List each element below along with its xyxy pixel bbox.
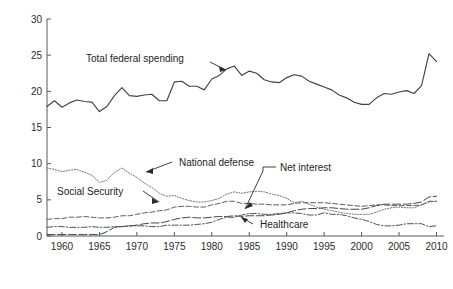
x-tick-label: 1960	[51, 241, 74, 252]
x-tick-label: 2005	[388, 241, 411, 252]
x-tick-label: 2000	[350, 241, 373, 252]
annotation-total-federal-spending: Total federal spending	[86, 53, 184, 64]
arrowhead-national-defense	[146, 168, 153, 174]
x-tick-label: 1980	[201, 241, 224, 252]
leader-net-interest	[263, 167, 276, 171]
x-tick-label: 1985	[238, 241, 261, 252]
chart-canvas: 051015202530 196019651970197519801985199…	[0, 0, 453, 289]
leader-net-interest-arrow-line	[245, 171, 263, 209]
y-tick-label: 30	[31, 14, 43, 25]
x-tick-label: 2010	[425, 241, 448, 252]
x-tick-label: 1990	[276, 241, 299, 252]
x-tick-label: 1970	[126, 241, 149, 252]
x-axis-ticks: 1960196519701975198019851990199520002005…	[51, 232, 448, 252]
data-series-group	[47, 54, 437, 235]
federal-spending-chart: 051015202530 196019651970197519801985199…	[0, 0, 453, 289]
annotation-national-defense: National defense	[179, 157, 254, 168]
leader-social-security	[143, 191, 159, 202]
series-line-net-interest	[47, 213, 437, 227]
y-tick-label: 25	[31, 50, 43, 61]
x-tick-label: 1975	[163, 241, 186, 252]
y-tick-label: 10	[31, 158, 43, 169]
y-tick-label: 5	[36, 194, 42, 205]
x-tick-label: 1965	[88, 241, 111, 252]
y-tick-label: 0	[36, 231, 42, 242]
annotation-healthcare: Healthcare	[260, 219, 309, 230]
annotation-leaders	[143, 62, 276, 224]
y-axis-ticks: 051015202530	[31, 14, 51, 242]
annotation-net-interest: Net interest	[280, 162, 331, 173]
y-tick-label: 15	[31, 122, 43, 133]
annotation-social-security: Social Security	[57, 186, 123, 197]
arrowhead-healthcare	[241, 217, 248, 223]
x-tick-label: 1995	[313, 241, 336, 252]
y-tick-label: 20	[31, 86, 43, 97]
